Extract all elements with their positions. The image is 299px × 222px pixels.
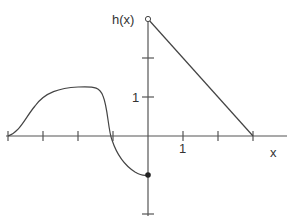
graph: h(x) x 1 1 bbox=[0, 0, 299, 222]
line-right bbox=[148, 19, 253, 136]
x-axis-label: x bbox=[270, 145, 277, 160]
x-tick-label-1: 1 bbox=[179, 141, 186, 156]
y-tick-label-1: 1 bbox=[132, 90, 139, 105]
y-axis-label: h(x) bbox=[112, 12, 134, 27]
closed-endpoint-marker bbox=[145, 172, 151, 178]
open-endpoint-marker bbox=[145, 16, 150, 21]
